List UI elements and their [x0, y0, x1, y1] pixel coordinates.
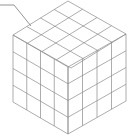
cube-grid — [13, 1, 126, 134]
leader-line — [0, 5, 31, 26]
top-face-line — [57, 26, 112, 60]
top-face-line — [27, 27, 85, 60]
top-face-line — [42, 18, 97, 52]
cube-diagram — [0, 0, 134, 136]
top-face-line — [71, 34, 126, 68]
